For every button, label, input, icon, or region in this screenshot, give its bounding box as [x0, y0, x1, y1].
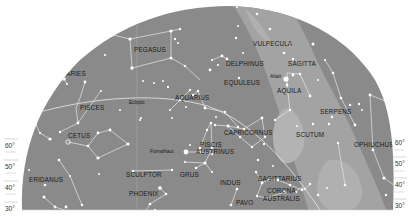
constellation-label: DELPHINUS: [226, 60, 264, 67]
constellation-label: GRUS: [180, 171, 199, 178]
star-chart: PEGASUS VULPECULA DELPHINUS SAGITTA ARIE…: [0, 0, 408, 221]
constellation-label: VULPECULA: [253, 40, 293, 47]
constellation-label: ARIES: [66, 70, 86, 77]
svg-text:30°: 30°: [395, 202, 405, 209]
constellation-label: AQUARIUS: [175, 94, 210, 102]
svg-text:50°: 50°: [395, 160, 405, 167]
constellation-label: PEGASUS: [134, 46, 166, 53]
svg-text:60°: 60°: [5, 142, 15, 149]
constellation-label: SAGITTARIUS: [258, 175, 302, 182]
constellation-label: PISCIS: [200, 141, 222, 148]
constellation-label: ERIDANUS: [29, 176, 63, 183]
constellation-label: CAPRICORNUS: [224, 129, 273, 136]
constellation-label: PISCES: [80, 104, 104, 111]
constellation-label: AQUILA: [277, 87, 302, 95]
constellation-label: EQUULEUS: [224, 79, 260, 87]
constellation-label: SERPENS: [320, 108, 352, 115]
svg-text:50°: 50°: [5, 163, 15, 170]
constellation-label: PHOENIX: [129, 190, 159, 197]
svg-text:40°: 40°: [395, 181, 405, 188]
constellation-label: AUSTRALIS: [263, 195, 300, 202]
constellation-label: SCUTUM: [296, 131, 324, 138]
star-label-fomalhaut: Fomalhaut: [150, 148, 174, 154]
constellation-label: AUSTRINUS: [196, 148, 234, 155]
constellation-label: CETUS: [68, 132, 90, 139]
constellation-label: OPHIUCHUS: [354, 141, 394, 148]
star-label-altair: Altair: [270, 73, 282, 79]
svg-text:30°: 30°: [5, 205, 15, 212]
ecliptic-label: Ecliptic: [129, 99, 145, 105]
altitude-scale-right: 60° 50° 40° 30°: [393, 139, 407, 209]
constellation-label: CORONA: [267, 187, 296, 194]
altitude-scale-left: 60° 50° 40° 30°: [4, 139, 18, 212]
svg-text:60°: 60°: [395, 139, 405, 146]
constellation-label: PAVO: [236, 199, 253, 206]
constellation-label: INDUS: [220, 179, 241, 186]
constellation-label: SAGITTA: [288, 60, 316, 67]
constellation-label: SCULPTOR: [126, 171, 162, 178]
svg-text:40°: 40°: [5, 184, 15, 191]
